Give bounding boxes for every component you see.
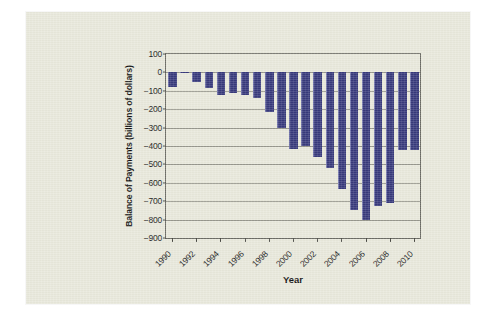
bar-series [166, 54, 420, 238]
x-tick-label: 1990 [154, 250, 173, 269]
x-axis-title: Year [165, 274, 421, 285]
y-tick-label: 100 [148, 50, 162, 59]
y-tick-label: −900 [144, 234, 162, 243]
x-tick-label: 1996 [226, 250, 245, 269]
x-tick-label: 2004 [323, 250, 342, 269]
bar [313, 72, 321, 156]
bar [386, 72, 394, 203]
y-tick-label: 0 [157, 68, 162, 77]
x-tick-label: 2000 [275, 250, 294, 269]
x-tick-mark [245, 238, 246, 242]
figure-panel: Balance of Payments (billions of dollars… [26, 12, 470, 304]
y-tick-label: −200 [144, 105, 162, 114]
bar [277, 72, 285, 127]
bar [362, 72, 370, 220]
y-axis-title: Balance of Payments (billions of dollars… [122, 53, 136, 239]
x-tick-label: 2006 [347, 250, 366, 269]
bar [217, 72, 225, 94]
x-tick-mark [317, 238, 318, 242]
x-tick-label: 2008 [371, 250, 390, 269]
y-tick-label: −700 [144, 197, 162, 206]
x-tick-mark [172, 238, 173, 242]
x-tick-mark [293, 238, 294, 242]
y-axis-title-text: Balance of Payments (billions of dollars… [124, 65, 134, 227]
bar [410, 72, 418, 149]
x-tick-label: 2002 [299, 250, 318, 269]
bar [289, 72, 297, 149]
bar [241, 72, 249, 95]
y-tick-label: −600 [144, 179, 162, 188]
bar [398, 72, 406, 149]
bar [265, 72, 273, 112]
bar [350, 72, 358, 210]
bar [253, 72, 261, 98]
x-tick-mark [366, 238, 367, 242]
y-tick-label: −800 [144, 215, 162, 224]
bar [180, 72, 188, 73]
bar [301, 72, 309, 145]
x-tick-mark [220, 238, 221, 242]
bar [192, 72, 200, 81]
x-tick-mark [390, 238, 391, 242]
x-tick-label: 1992 [178, 250, 197, 269]
bar-chart: Balance of Payments (billions of dollars… [26, 12, 470, 304]
plot-area: 1000−100−200−300−400−500−600−700−800−900… [165, 53, 421, 239]
y-tick-label: −300 [144, 123, 162, 132]
x-tick-label: 2010 [396, 250, 415, 269]
bar [326, 72, 334, 168]
x-tick-label: 1998 [250, 250, 269, 269]
y-tick-label: −400 [144, 142, 162, 151]
x-tick-mark [341, 238, 342, 242]
x-tick-mark [269, 238, 270, 242]
bar [168, 72, 176, 87]
bar [205, 72, 213, 88]
y-tick-label: −100 [144, 87, 162, 96]
x-tick-label: 1994 [202, 250, 221, 269]
x-tick-mark [196, 238, 197, 242]
bar [374, 72, 382, 206]
x-tick-mark [414, 238, 415, 242]
figure-page: Balance of Payments (billions of dollars… [0, 0, 496, 318]
bar [229, 72, 237, 93]
y-tick-label: −500 [144, 160, 162, 169]
bar [338, 72, 346, 189]
